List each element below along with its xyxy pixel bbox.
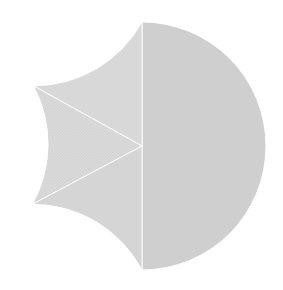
pie-slice-1[interactable] (142, 22, 266, 270)
pie-chart-canvas (0, 0, 283, 290)
pie-slice-group (33, 22, 266, 270)
pie-chart-figure (0, 0, 283, 290)
